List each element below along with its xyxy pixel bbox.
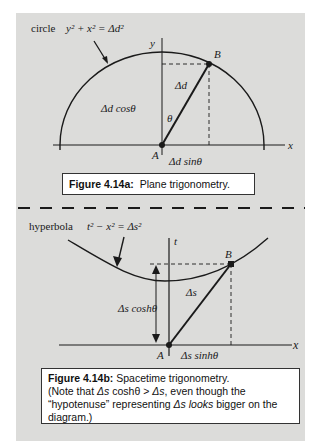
point-b-label: B	[225, 248, 232, 260]
figure-a-caption: Figure 4.14a: Plane trigonometry.	[62, 173, 255, 195]
hypotenuse-label: Δd	[174, 79, 187, 91]
figure-a-plot: circle y² + x² = Δd² x y A B Δd θ Δd cos…	[31, 22, 293, 167]
point-b-label: B	[214, 48, 221, 60]
vertical-leg-label: Δd cosθ	[100, 102, 136, 114]
arrow-up-icon	[152, 265, 160, 274]
point-a-dot	[159, 142, 165, 148]
figure-b-caption: Figure 4.14b: Spacetime trigonometry. (N…	[41, 368, 300, 424]
caption-b-expr: Δs looks	[174, 398, 214, 410]
circle-label: circle	[31, 22, 56, 34]
point-a-label: A	[156, 349, 164, 361]
x-axis-label: x	[292, 338, 299, 352]
y-axis-label: y	[149, 37, 155, 49]
figure-b-plot: hyperbola t² − x² = Δs² x t A B Δs Δs co…	[29, 220, 299, 361]
vertical-leg-label: Δs coshθ	[117, 302, 158, 314]
circle-equation: y² + x² = Δd²	[65, 22, 124, 34]
caption-b-note: coshθ >	[109, 385, 152, 397]
caption-a-label: Figure 4.14a:	[69, 178, 134, 190]
hyperbola-curve	[68, 238, 268, 281]
caption-b-title: Spacetime trigonometry.	[116, 372, 229, 384]
point-b-dot	[228, 261, 234, 267]
arrow-down-icon	[152, 334, 160, 343]
angle-label: θ	[167, 112, 173, 124]
point-a-label: A	[151, 149, 159, 161]
point-a-dot	[166, 342, 172, 348]
caption-b-expr: Δs	[152, 385, 164, 397]
horizontal-leg-label: Δs sinhθ	[180, 349, 219, 361]
hyperbola-equation: t² − x² = Δs²	[87, 220, 142, 232]
caption-b-expr: Δs	[97, 385, 109, 397]
x-axis-label: x	[287, 139, 293, 151]
hypotenuse-label: Δs	[185, 286, 197, 298]
caption-b-note: (Note that	[48, 385, 97, 397]
caption-a-text: Plane trigonometry.	[140, 178, 230, 190]
hypotenuse-line	[162, 64, 209, 145]
point-b-dot	[206, 61, 212, 67]
t-axis-label: t	[174, 235, 178, 247]
hyperbola-label: hyperbola	[29, 220, 73, 232]
caption-b-label: Figure 4.14b:	[48, 372, 113, 384]
arrowhead-icon	[113, 256, 122, 267]
horizontal-leg-label: Δd sinθ	[168, 155, 203, 167]
arrowhead-icon	[102, 56, 108, 64]
